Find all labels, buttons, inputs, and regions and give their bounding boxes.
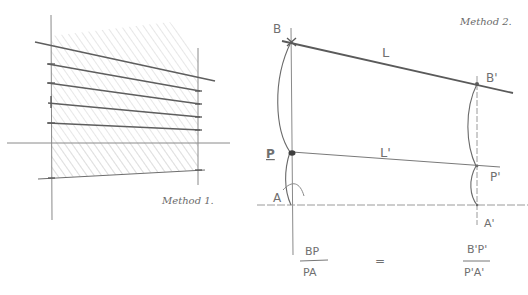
point-P-marker <box>289 150 296 156</box>
sketch-canvas: Method 1. Method 2. B L B' P <box>0 0 528 295</box>
ratio-equation: BP PA = B'P' P'A' <box>300 243 490 279</box>
method1-hatched-region-bottom <box>51 143 198 178</box>
point-P-prime-marker <box>476 165 479 168</box>
method2-label: Method 2. <box>459 16 512 27</box>
method2-diagram: Method 2. B L B' P L' P' A <box>257 16 528 279</box>
label-P-prime: P' <box>490 170 501 184</box>
label-A: A <box>273 191 282 205</box>
method1-label: Method 1. <box>161 195 214 206</box>
ratio-left-bar <box>300 260 328 261</box>
ratio-right-denominator: P'A' <box>464 266 484 279</box>
method2-left-arc-PA <box>286 152 291 205</box>
label-L: L <box>382 45 390 60</box>
method2-right-arc-PA <box>471 166 477 205</box>
ratio-left-numerator: BP <box>305 245 320 258</box>
point-A-prime-marker <box>476 204 479 207</box>
equals-sign: = <box>375 254 385 268</box>
method2-right-arc-BP <box>468 84 477 166</box>
label-P: P <box>266 147 275 161</box>
label-L-prime: L' <box>380 145 391 160</box>
label-A-prime: A' <box>484 217 495 230</box>
method2-left-vertical <box>291 28 293 255</box>
label-B-prime: B' <box>486 71 498 85</box>
point-B-prime-marker <box>475 82 479 86</box>
ratio-right-numerator: B'P' <box>467 243 487 256</box>
line-L-prime <box>292 152 500 167</box>
ratio-left-denominator: PA <box>303 266 317 279</box>
method1-diagram: Method 1. <box>7 15 230 220</box>
method2-left-arc-BP <box>278 42 291 152</box>
label-B: B <box>273 22 281 36</box>
